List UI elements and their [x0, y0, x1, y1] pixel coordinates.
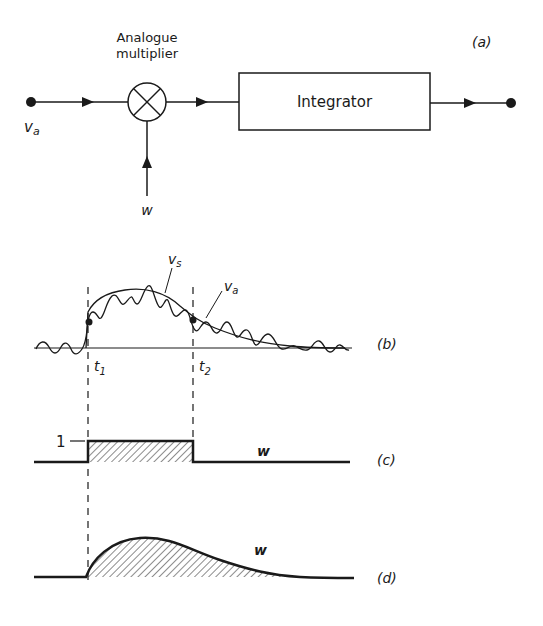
panel-a-block-diagram: (a) va Analogue multiplier w Integrator [24, 30, 516, 218]
multiplier-label-line1: Analogue [116, 30, 177, 45]
panel-d-label: (d) [377, 570, 397, 586]
t2-label: t2 [199, 358, 211, 377]
rect-window-curve [34, 441, 350, 462]
va-label: va [224, 278, 238, 296]
vs-leader-line [165, 268, 172, 293]
vs-label: vs [168, 251, 182, 269]
input-arrow-icon [82, 97, 94, 107]
rect-window-fill [88, 441, 193, 462]
panel-c-rect-window: 1 w (c) [34, 433, 396, 468]
panel-b-label: (b) [377, 336, 397, 352]
level-label: 1 [56, 433, 66, 451]
va-smooth-curve [86, 289, 345, 348]
rect-window-label: w [257, 443, 270, 459]
panel-c-label: (c) [377, 452, 396, 468]
weight-arrow-icon [142, 156, 152, 168]
output-arrow-icon [464, 98, 476, 108]
weight-label: w [141, 202, 153, 218]
smooth-window-label: w [254, 542, 267, 558]
multiplier-output-arrow-icon [196, 97, 208, 107]
output-node [506, 98, 516, 108]
t1-label: t1 [94, 358, 106, 377]
multiplier-label-line2: multiplier [116, 46, 179, 61]
integrator-label: Integrator [297, 93, 373, 111]
panel-a-label: (a) [472, 34, 492, 50]
multiplier-icon [128, 83, 166, 121]
signal-weighting-diagram: (a) va Analogue multiplier w Integrator [0, 0, 543, 626]
sample-point-t2 [190, 317, 197, 324]
input-label: va [24, 118, 40, 138]
sample-point-t1 [86, 319, 93, 326]
va-leader-line [206, 291, 222, 318]
